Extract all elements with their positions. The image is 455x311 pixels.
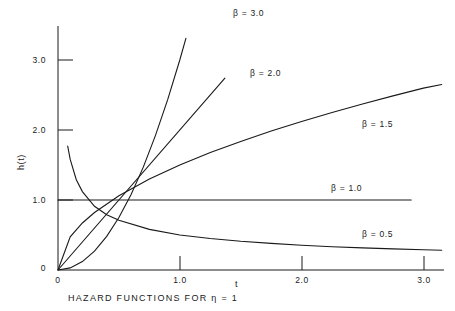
x-axis-title: t [235,279,238,289]
x-tick-label-3: 3.0 [409,275,439,285]
series-label-beta-1-5: β = 1.5 [362,119,393,129]
plot-area [0,0,455,311]
x-tick-label-1: 1.0 [165,275,195,285]
x-tick-label-0: 0 [43,275,73,285]
hazard-function-chart: 3.0 2.0 1.0 0 0 1.0 2.0 3.0 h(t) t β = 3… [0,0,455,311]
y-tick-label-0: 0 [20,263,46,273]
y-tick-label-2: 2.0 [20,125,46,135]
y-tick-label-1: 1.0 [20,195,46,205]
y-axis-title: h(t) [16,154,26,170]
series-label-beta-3: β = 3.0 [233,8,264,18]
x-tick-label-2: 2.0 [287,275,317,285]
curve-beta-3 [58,38,186,270]
curve-beta-2 [58,78,225,270]
y-tick-label-3: 3.0 [20,55,46,65]
figure-caption: HAZARD FUNCTIONS FOR η = 1 [68,293,238,303]
series-label-beta-1: β = 1.0 [331,183,362,193]
series-label-beta-0-5: β = 0.5 [362,229,393,239]
series-label-beta-2: β = 2.0 [250,68,281,78]
